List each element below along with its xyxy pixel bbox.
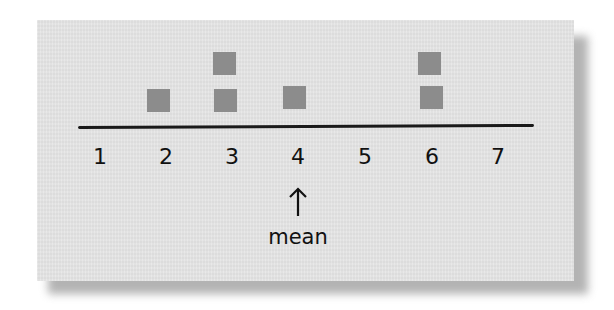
tick-label-1: 1	[85, 144, 115, 169]
tick-label-7: 7	[483, 144, 513, 169]
tick-label-3: 3	[217, 144, 247, 169]
tick-label-6: 6	[417, 144, 447, 169]
data-dot-x6-2	[418, 52, 441, 75]
up-arrow-icon	[288, 187, 308, 217]
number-line	[78, 124, 534, 129]
data-dot-x6-1	[420, 86, 443, 109]
dot-plot-card: 1 2 3 4 5 6 7 mean	[37, 20, 574, 281]
tick-label-5: 5	[350, 144, 380, 169]
data-dot-x2-1	[147, 89, 170, 112]
mean-label: mean	[258, 225, 338, 249]
data-dot-x3-2	[213, 52, 236, 75]
data-dot-x4-1	[283, 86, 306, 109]
tick-label-4: 4	[283, 144, 313, 169]
tick-label-2: 2	[151, 144, 181, 169]
data-dot-x3-1	[214, 89, 237, 112]
